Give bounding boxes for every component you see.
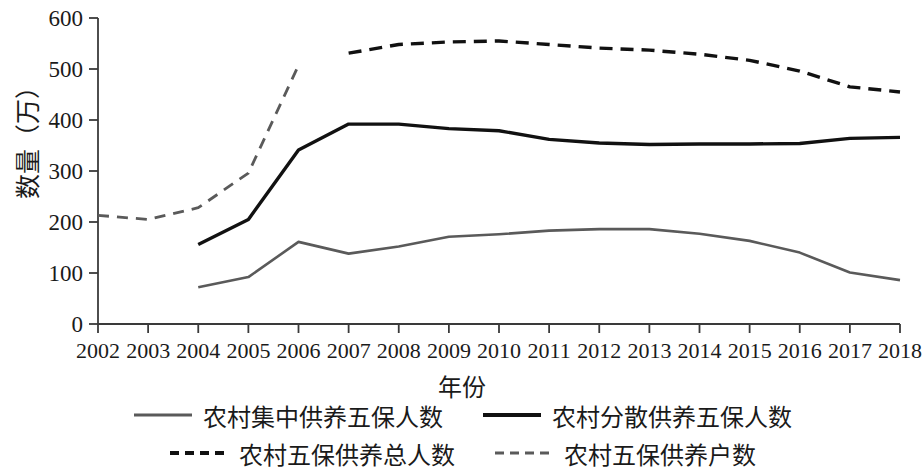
legend-item-1[interactable]: 农村分散供养五保人数 (481, 398, 792, 433)
svg-text:2003: 2003 (126, 338, 170, 363)
chart-figure: 0100200300400500600 20022003200420052006… (0, 0, 923, 473)
series-line-0 (198, 229, 900, 287)
x-axis-tick-marks (98, 324, 900, 333)
svg-text:2009: 2009 (427, 338, 471, 363)
series-line-3 (98, 65, 299, 219)
svg-text:2015: 2015 (728, 338, 772, 363)
y-axis-tick-labels: 0100200300400500600 (49, 6, 84, 337)
svg-text:2014: 2014 (678, 338, 722, 363)
legend-item-0[interactable]: 农村集中供养五保人数 (132, 398, 443, 433)
legend-label-1: 农村分散供养五保人数 (552, 398, 792, 433)
svg-text:2004: 2004 (176, 338, 220, 363)
plot-area: 0100200300400500600 20022003200420052006… (0, 0, 923, 400)
svg-text:0: 0 (72, 312, 84, 337)
svg-text:2012: 2012 (577, 338, 621, 363)
svg-text:200: 200 (49, 210, 84, 235)
svg-text:400: 400 (49, 108, 84, 133)
svg-text:2006: 2006 (277, 338, 321, 363)
data-series-lines (98, 41, 900, 287)
line-chart-svg: 0100200300400500600 20022003200420052006… (0, 0, 923, 400)
legend-row-bottom: 农村五保供养总人数 农村五保供养户数 (0, 434, 923, 472)
y-axis-tick-marks (89, 18, 98, 324)
chart-legend: 农村集中供养五保人数 农村分散供养五保人数 农村五保供养总人数 农村五保供 (0, 396, 923, 473)
legend-item-3[interactable]: 农村五保供养户数 (493, 436, 756, 471)
svg-text:2017: 2017 (828, 338, 872, 363)
legend-label-3: 农村五保供养户数 (564, 436, 756, 471)
legend-swatch-1 (481, 408, 543, 422)
svg-text:2010: 2010 (477, 338, 521, 363)
svg-text:100: 100 (49, 261, 84, 286)
svg-text:2016: 2016 (778, 338, 822, 363)
legend-swatch-2 (168, 446, 230, 460)
y-axis-title: 数量（万） (8, 56, 44, 216)
svg-text:2007: 2007 (327, 338, 371, 363)
series-line-2 (349, 41, 900, 92)
legend-label-0: 农村集中供养五保人数 (203, 398, 443, 433)
svg-text:2011: 2011 (528, 338, 571, 363)
svg-text:2013: 2013 (627, 338, 671, 363)
svg-text:600: 600 (49, 6, 84, 31)
legend-label-2: 农村五保供养总人数 (239, 436, 455, 471)
legend-swatch-3 (493, 446, 555, 460)
series-line-1 (198, 124, 900, 244)
axis-lines (98, 18, 900, 324)
svg-text:2018: 2018 (878, 338, 922, 363)
svg-text:2005: 2005 (226, 338, 270, 363)
legend-item-2[interactable]: 农村五保供养总人数 (168, 436, 455, 471)
legend-row-top: 农村集中供养五保人数 农村分散供养五保人数 (0, 396, 923, 434)
x-axis-tick-labels: 2002200320042005200620072008200920102011… (76, 338, 922, 363)
svg-text:2008: 2008 (377, 338, 421, 363)
svg-text:500: 500 (49, 57, 84, 82)
svg-text:300: 300 (49, 159, 84, 184)
legend-swatch-0 (132, 408, 194, 422)
svg-text:2002: 2002 (76, 338, 120, 363)
